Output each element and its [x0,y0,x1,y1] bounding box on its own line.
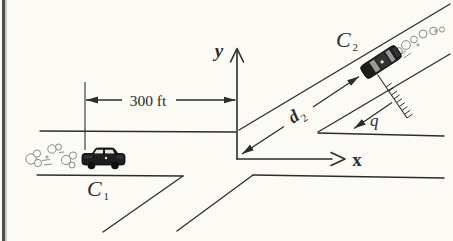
coordinate-axes: y x [213,40,362,170]
d2-dimension: d 2 [242,77,359,155]
car2-label-subscript: 2 [353,41,359,53]
car1-label-group: C 1 [87,176,109,202]
page-edge-line [2,0,5,241]
car1-icon [82,148,125,169]
intersection-diagram: y x 300 ft d 2 q [0,0,453,241]
car2-icon [359,44,402,79]
car2-label-group: C 2 [336,27,358,53]
page-edge-shadow [5,0,6,241]
horizontal-road-top-edge-right [318,133,444,136]
diagonal-road-upper-left-edge [239,4,450,130]
horizontal-road-bottom-edge-right [253,175,444,178]
car2-label: C [336,27,351,52]
x-axis-arrow-icon [331,153,345,166]
car1-smoke-icon [26,144,77,168]
y-axis-label: y [213,40,224,61]
distance-dimension: 300 ft [85,82,236,150]
d2-label-group: d 2 [284,102,310,130]
q-label: q [370,111,379,130]
car1-label-subscript: 1 [104,190,110,202]
diagonal-road-lower-left-edge [103,176,183,232]
d2-arrow-origin-icon [242,127,284,155]
car1-label: C [87,176,102,201]
skid-mark-line [378,75,413,119]
skid-line [378,75,408,119]
horizontal-road-top-edge [40,131,236,132]
hatch-ticks-icon [386,83,413,118]
distance-dimension-label: 300 ft [130,92,167,109]
diagonal-road-lower-right-edge [177,175,253,231]
x-axis-label: x [352,149,362,170]
figure-canvas: y x 300 ft d 2 q [0,0,453,241]
horizontal-road-bottom-edge-left [37,175,183,176]
